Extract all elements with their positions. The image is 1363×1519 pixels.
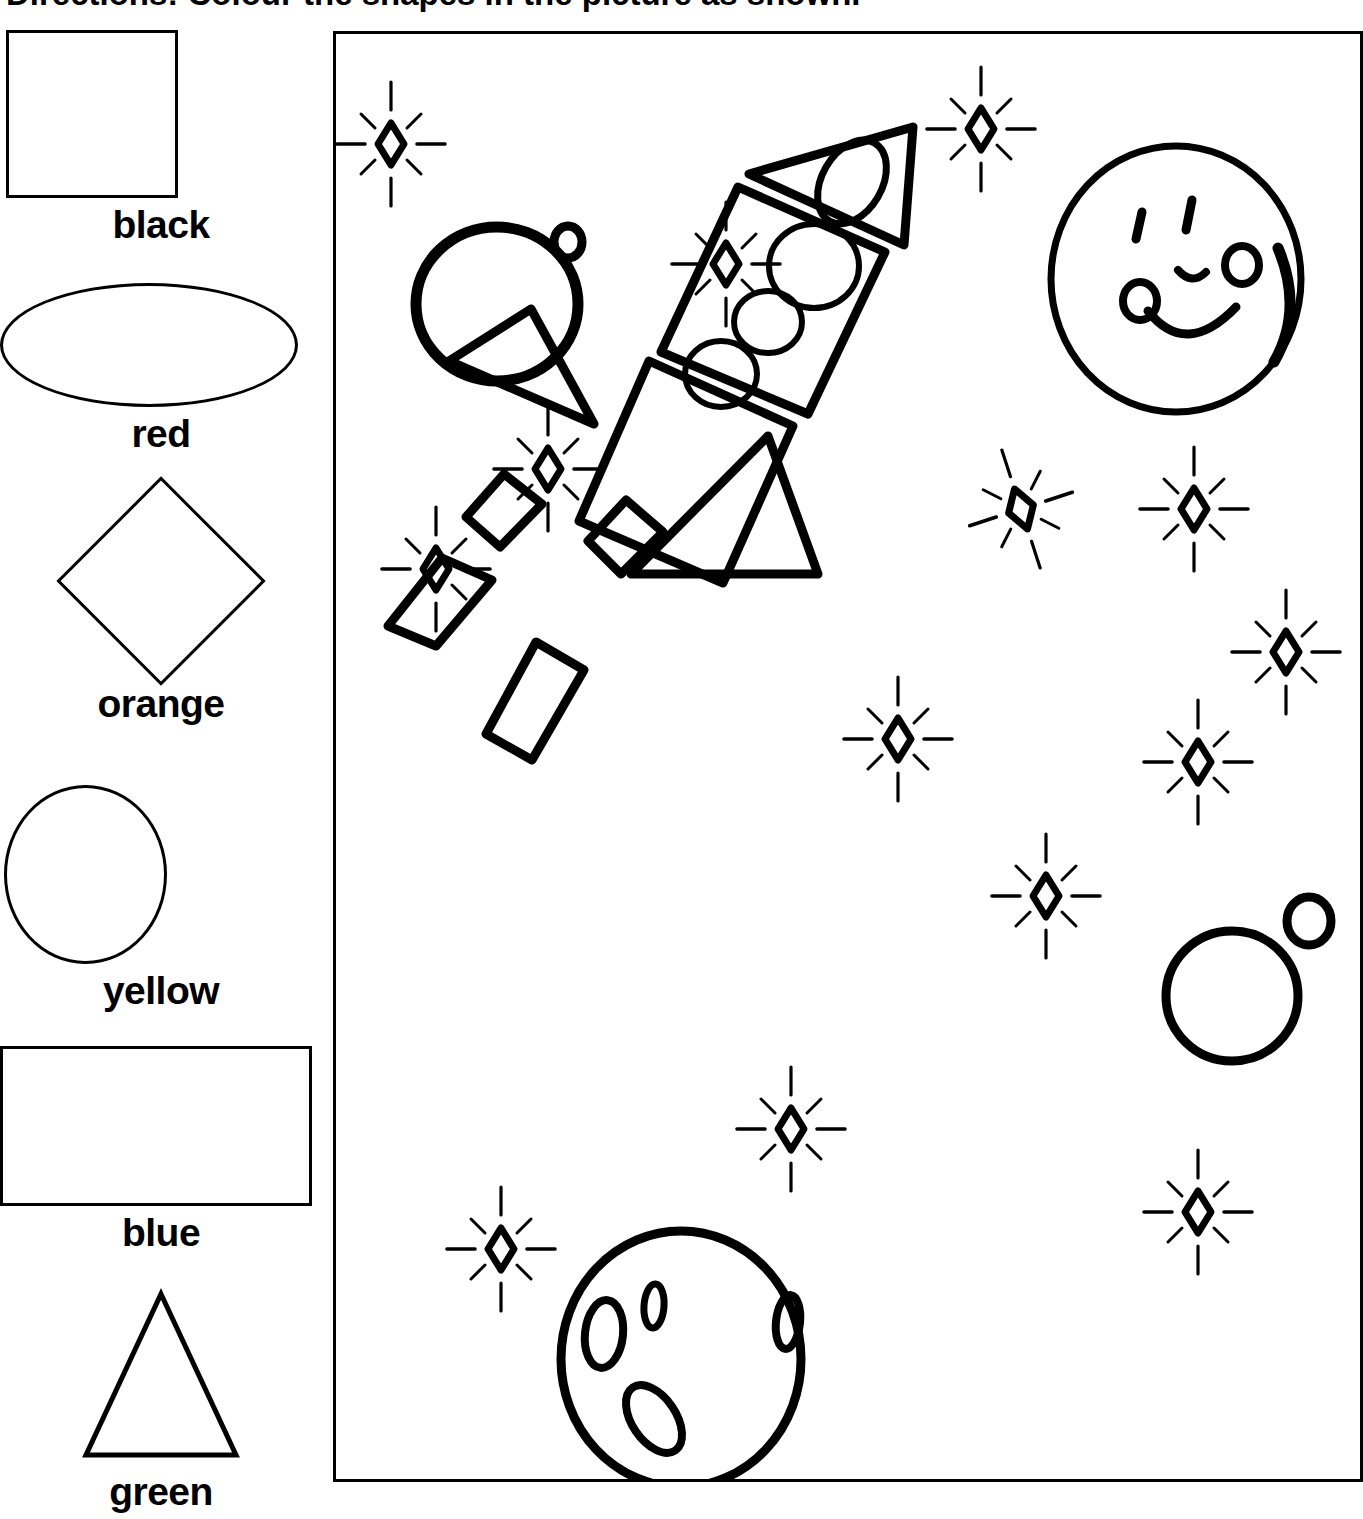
- legend-label-yellow: yellow: [0, 971, 322, 1010]
- smile: [1148, 307, 1236, 334]
- legend-label-red: red: [0, 414, 322, 453]
- star-icon: [927, 67, 1035, 191]
- space-scene-illustration: [336, 34, 1360, 1479]
- page-title: Directions: Colour the shapes in the pic…: [6, 0, 1106, 14]
- moon-crater-small: [642, 1283, 665, 1328]
- legend-item-black: black: [0, 30, 322, 244]
- triangle-swatch: [0, 1288, 322, 1465]
- legend-item-orange: orange: [0, 478, 322, 723]
- legend-item-blue: blue: [0, 1046, 322, 1252]
- smile-end-left: [1123, 282, 1157, 320]
- star-field: [337, 67, 1340, 1311]
- legend-label-green: green: [0, 1472, 322, 1511]
- star-icon: [337, 82, 445, 206]
- moon-crater-left: [582, 1298, 627, 1370]
- legend-item-green: green: [0, 1288, 322, 1511]
- smile-end-right: [1225, 246, 1259, 284]
- legend-label-orange: orange: [0, 684, 322, 723]
- rectangle-swatch: [0, 1046, 322, 1206]
- legend-label-blue: blue: [0, 1213, 322, 1252]
- circle-swatch: [0, 785, 322, 964]
- planet-outline: [1051, 146, 1301, 412]
- legend-label-black: black: [0, 205, 322, 244]
- diamond-swatch: [0, 507, 322, 655]
- star-icon: [737, 1067, 845, 1191]
- planet-large-circle: [1166, 931, 1298, 1061]
- star-icon: [1140, 447, 1248, 571]
- nose: [1178, 270, 1206, 279]
- eye-right: [1186, 200, 1192, 230]
- star-icon: [447, 1187, 555, 1311]
- star-icon: [950, 433, 1091, 584]
- page-title-text: Directions: Colour the shapes in the pic…: [6, 0, 860, 12]
- star-icon: [1144, 700, 1252, 824]
- smiling-planet: [1051, 146, 1301, 412]
- star-icon: [1144, 1150, 1252, 1274]
- cratered-moon: [561, 1231, 803, 1479]
- rocket-flame-diamond-2: [486, 642, 584, 760]
- planet-bottom-right: [1166, 897, 1331, 1061]
- triangle-icon: [81, 1288, 241, 1461]
- oval-swatch: [0, 283, 322, 407]
- legend-item-red: red: [0, 283, 322, 453]
- star-icon: [844, 677, 952, 801]
- planet-small-circle: [1287, 897, 1331, 945]
- legend-item-yellow: yellow: [0, 785, 322, 1010]
- moon-crater-bottom: [615, 1375, 694, 1463]
- crescent-arc: [1274, 248, 1290, 362]
- star-icon: [992, 834, 1100, 958]
- picture-panel: [333, 31, 1363, 1482]
- square-swatch: [0, 30, 322, 198]
- eye-left: [1136, 212, 1142, 239]
- rocket-window-medium: [734, 291, 802, 353]
- rocket: [388, 127, 913, 760]
- star-icon: [1232, 590, 1340, 714]
- rocket-flame-diamond-1: [388, 558, 492, 646]
- colour-key-legend: black red orange yellow: [0, 30, 322, 1519]
